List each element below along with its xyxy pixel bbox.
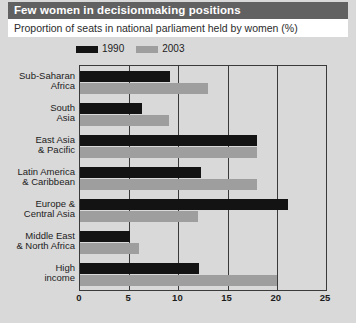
category-label: Europe &Central Asia	[0, 199, 75, 220]
legend-2003: 2003	[136, 44, 184, 54]
bar-group	[80, 226, 326, 258]
category-label-line: Central Asia	[0, 209, 75, 220]
bar-1990	[80, 263, 199, 274]
chart-figure: Few women in decisionmaking positions Pr…	[0, 0, 356, 323]
bar-series-container	[80, 66, 326, 290]
legend-1990: 1990	[76, 44, 124, 54]
bar-2003	[80, 115, 169, 126]
category-label-line: Africa	[0, 81, 75, 92]
bar-group	[80, 98, 326, 130]
bar-2003	[80, 179, 257, 190]
category-label: Latin America& Caribbean	[0, 167, 75, 188]
legend-swatch-1990	[76, 46, 98, 53]
x-tick-15: 15	[221, 292, 232, 304]
category-label: Sub-SaharanAfrica	[0, 71, 75, 92]
bar-group	[80, 130, 326, 162]
legend-label-2003: 2003	[162, 44, 184, 54]
bar-2003	[80, 243, 139, 254]
x-axis-tick-labels: 0510152025	[79, 292, 327, 306]
chart-subtitle: Proportion of seats in national parliame…	[8, 19, 348, 37]
bar-group	[80, 258, 326, 290]
category-label: SouthAsia	[0, 103, 75, 124]
x-tick-0: 0	[76, 292, 81, 304]
bar-1990	[80, 103, 142, 114]
bar-2003	[80, 83, 208, 94]
bar-1990	[80, 199, 288, 210]
category-label-line: & North Africa	[0, 241, 75, 252]
x-tick-5: 5	[126, 292, 131, 304]
category-label: Middle East& North Africa	[0, 231, 75, 252]
bar-1990	[80, 135, 257, 146]
bar-2003	[80, 275, 277, 286]
bar-group	[80, 194, 326, 226]
x-tick-20: 20	[271, 292, 282, 304]
category-label: East Asia& Pacific	[0, 135, 75, 156]
category-label-line: Asia	[0, 113, 75, 124]
legend-label-1990: 1990	[102, 44, 124, 54]
chart-legend: 19902003	[76, 43, 192, 55]
x-tick-10: 10	[172, 292, 183, 304]
legend-swatch-2003	[136, 46, 158, 53]
category-label-line: & Caribbean	[0, 177, 75, 188]
plot-area	[79, 65, 327, 291]
bar-1990	[80, 71, 170, 82]
bar-1990	[80, 167, 201, 178]
x-tick-25: 25	[320, 292, 331, 304]
category-label-line: income	[0, 273, 75, 284]
bar-2003	[80, 147, 257, 158]
bar-2003	[80, 211, 198, 222]
chart-title: Few women in decisionmaking positions	[8, 2, 348, 19]
category-label-line: & Pacific	[0, 145, 75, 156]
category-label: Highincome	[0, 263, 75, 284]
category-axis-labels: Sub-SaharanAfricaSouthAsiaEast Asia& Pac…	[0, 65, 75, 289]
bar-1990	[80, 231, 130, 242]
bar-group	[80, 162, 326, 194]
bar-group	[80, 66, 326, 98]
